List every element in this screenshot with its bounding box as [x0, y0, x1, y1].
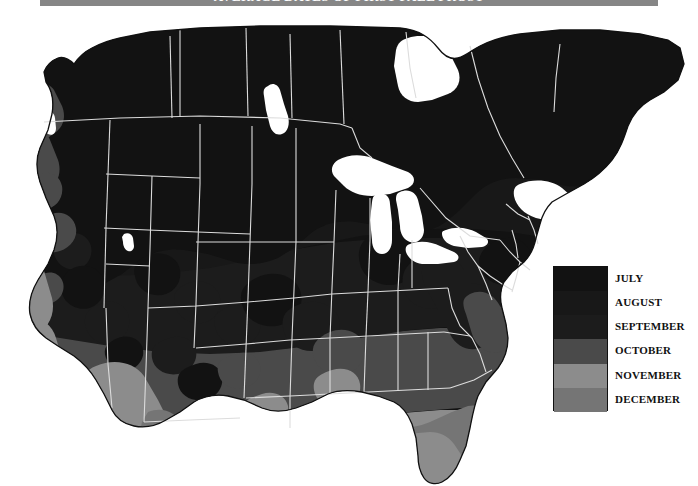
- hudson-bay: [394, 36, 460, 102]
- legend-label-august: AUGUST: [615, 290, 695, 314]
- legend-label-october: OCTOBER: [615, 338, 695, 362]
- legend-label-december: DECEMBER: [615, 387, 695, 411]
- map-container: [0, 8, 698, 486]
- legend-label-column: JULYAUGUSTSEPTEMBEROCTOBERNOVEMBERDECEMB…: [615, 266, 695, 411]
- frost-map-svg: [0, 8, 698, 486]
- map-legend: JULYAUGUSTSEPTEMBEROCTOBERNOVEMBERDECEMB…: [553, 266, 695, 412]
- lake-michigan: [370, 193, 392, 254]
- page-title: AVERAGE DATES OF FIRST FALL FROST: [40, 0, 658, 5]
- legend-swatch-november: [554, 364, 607, 388]
- legend-label-september: SEPTEMBER: [615, 314, 695, 338]
- legend-label-july: JULY: [615, 266, 695, 290]
- frost-map-page: AVERAGE DATES OF FIRST FALL FROST: [0, 0, 698, 486]
- legend-swatch-july: [554, 267, 607, 291]
- legend-swatch-august: [554, 291, 607, 315]
- legend-label-november: NOVEMBER: [615, 363, 695, 387]
- legend-swatch-column: [553, 266, 608, 411]
- legend-swatch-october: [554, 339, 607, 363]
- legend-swatch-december: [554, 388, 607, 412]
- legend-swatch-september: [554, 315, 607, 339]
- chesapeake-bay: [506, 299, 516, 328]
- map-shaded-regions: [0, 8, 698, 486]
- map-title-band: AVERAGE DATES OF FIRST FALL FROST: [40, 0, 658, 6]
- region-december: [200, 405, 516, 484]
